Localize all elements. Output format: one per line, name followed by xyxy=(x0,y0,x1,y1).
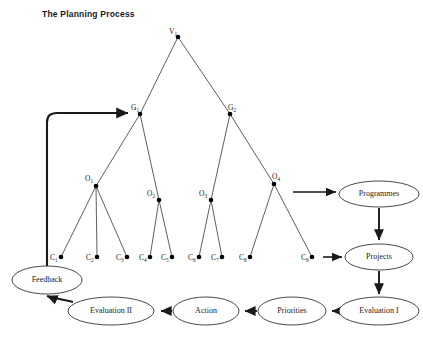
tree-node-label-o4: O4 xyxy=(272,172,280,182)
tree-node-dot-o2[interactable] xyxy=(157,198,162,203)
tree-node-dot-c9[interactable] xyxy=(310,255,315,260)
tree-node-dot-c4[interactable] xyxy=(148,255,153,260)
process-node-label-evaluation2: Evaluation II xyxy=(90,306,132,315)
tree-node-dot-c6[interactable] xyxy=(197,255,202,260)
process-node-label-priorities: Priorities xyxy=(277,306,306,315)
tree-edge-g2-o3 xyxy=(211,114,230,200)
tree-node-label-g2: G2 xyxy=(228,103,236,113)
planning-process-diagram: The Planning Process V1G1G2O1O2O3O4C1C2C… xyxy=(0,0,423,347)
tree-node-label-c5: C5 xyxy=(161,253,169,263)
tree-node-label-c4: C4 xyxy=(139,253,147,263)
tree-edge-o1-c2 xyxy=(96,186,97,257)
edge-evaluation2-to-feedback xyxy=(47,296,73,302)
tree-node-dot-o4[interactable] xyxy=(272,182,277,187)
process-node-label-programmes: Programmes xyxy=(359,189,399,198)
tree-node-dot-o1[interactable] xyxy=(94,184,99,189)
tree-edge-o2-c4 xyxy=(150,200,159,257)
tree-node-dot-c8[interactable] xyxy=(248,255,253,260)
process-node-programmes[interactable]: Programmes xyxy=(339,181,419,207)
tree-node-label-c8: C8 xyxy=(239,253,247,263)
tree-node-label-v1: V1 xyxy=(169,27,177,37)
tree-node-dot-c2[interactable] xyxy=(95,255,100,260)
tree-edge-g1-o2 xyxy=(140,114,159,200)
tree-node-label-c6: C6 xyxy=(188,253,196,263)
tree-node-label-c3: C3 xyxy=(116,253,124,263)
tree-node-label-c2: C2 xyxy=(86,253,94,263)
tree-edge-o3-c6 xyxy=(199,200,211,257)
tree-edge-g1-o1 xyxy=(96,114,140,186)
tree-edge-o4-c9 xyxy=(274,184,312,257)
tree-node-label-c1: C1 xyxy=(50,253,58,263)
tree-edge-g2-o4 xyxy=(230,114,274,184)
tree-edge-o1-c3 xyxy=(96,186,127,257)
tree-edge-v1-g2 xyxy=(178,37,230,114)
process-node-evaluation1[interactable]: Evaluation I xyxy=(339,297,419,325)
tree-node-label-o3: O3 xyxy=(199,189,207,199)
tree-edge-o1-c1 xyxy=(61,186,96,257)
process-node-label-evaluation1: Evaluation I xyxy=(359,306,399,315)
process-node-label-projects: Projects xyxy=(366,252,392,261)
tree-node-label-o2: O2 xyxy=(147,189,155,199)
tree-node-label-c9: C9 xyxy=(301,253,309,263)
tree-node-label-c7: C7 xyxy=(211,253,219,263)
tree-node-label-g1: G1 xyxy=(131,103,139,113)
tree-edge-v1-g1 xyxy=(140,37,178,114)
tree-node-dot-g2[interactable] xyxy=(228,112,233,117)
tree-node-dot-c7[interactable] xyxy=(220,255,225,260)
tree-node-dot-c3[interactable] xyxy=(125,255,130,260)
tree-edge-o2-c5 xyxy=(159,200,172,257)
tree-edges xyxy=(61,37,312,257)
tree-edge-o3-c7 xyxy=(211,200,222,257)
process-node-priorities[interactable]: Priorities xyxy=(258,297,326,325)
tree-node-dot-o3[interactable] xyxy=(209,198,214,203)
process-node-projects[interactable]: Projects xyxy=(345,244,413,270)
tree-node-dot-c1[interactable] xyxy=(59,255,64,260)
edge-feedback-to-g1 xyxy=(47,113,128,266)
process-node-label-feedback: Feedback xyxy=(32,275,63,284)
tree-node-dot-c5[interactable] xyxy=(170,255,175,260)
diagram-canvas: The Planning Process V1G1G2O1O2O3O4C1C2C… xyxy=(0,0,423,347)
process-node-label-action: Action xyxy=(195,306,217,315)
tree-edge-o4-c8 xyxy=(250,184,274,257)
tree-nodes: V1G1G2O1O2O3O4C1C2C3C4C5C6C7C8C9 xyxy=(50,27,314,263)
page-title: The Planning Process xyxy=(42,9,135,19)
process-node-action[interactable]: Action xyxy=(173,297,239,325)
process-node-feedback[interactable]: Feedback xyxy=(12,266,82,294)
tree-node-label-o1: O1 xyxy=(85,174,93,184)
process-node-evaluation2[interactable]: Evaluation II xyxy=(68,297,154,325)
